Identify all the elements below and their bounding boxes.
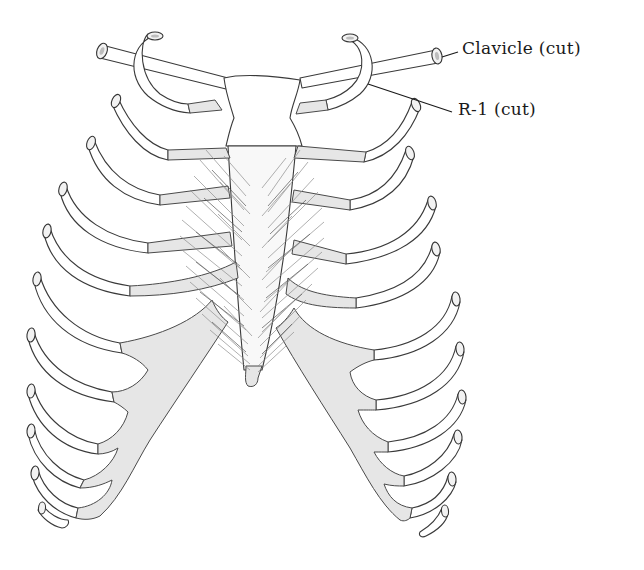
manubrium xyxy=(224,76,302,146)
label-rib1-cut: R-1 (cut) xyxy=(458,99,536,119)
rib-cage-diagram: Clavicle (cut) R-1 (cut) xyxy=(0,0,644,570)
ribs-left xyxy=(26,93,238,528)
label-clavicle-cut: Clavicle (cut) xyxy=(462,38,581,58)
clavicle-leader-line xyxy=(442,52,458,57)
ribs-right xyxy=(276,97,467,537)
xiphoid-process xyxy=(246,366,263,387)
rib-cage-illustration xyxy=(0,0,644,570)
clavicle-left xyxy=(95,42,228,89)
